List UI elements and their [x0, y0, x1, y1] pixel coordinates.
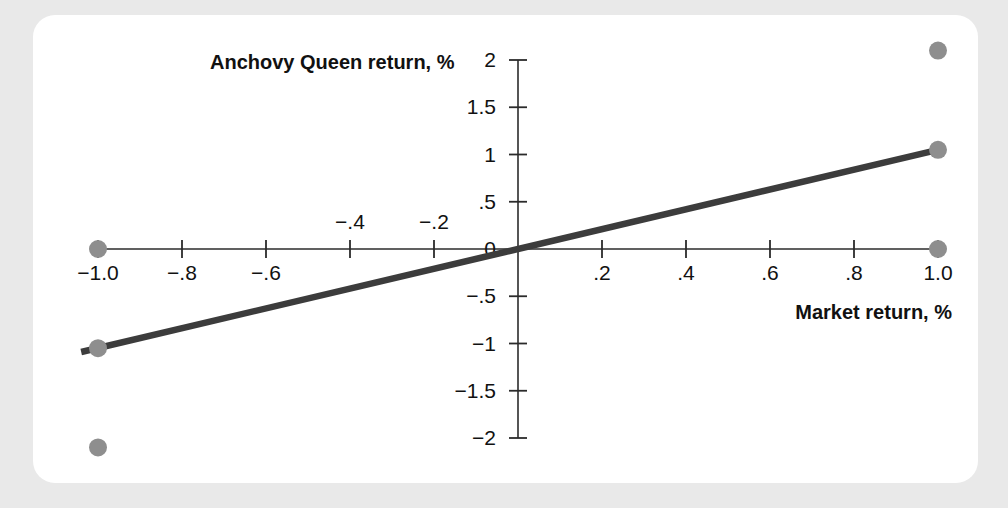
data-point-marker: [929, 141, 947, 159]
data-point-marker: [89, 438, 107, 456]
y-axis-title: Anchovy Queen return, %: [210, 51, 455, 73]
data-point-marker: [929, 42, 947, 60]
x-tick-label: .4: [677, 261, 695, 284]
x-tick-label: −.4: [335, 210, 365, 233]
y-tick-label: 1: [484, 143, 496, 166]
chart-container: −1.0−.8−.6−.4−.2.2.4.6.81.0 21.51.50−.5−…: [0, 0, 1008, 508]
data-point-marker: [89, 339, 107, 357]
screenshot-root: −1.0−.8−.6−.4−.2.2.4.6.81.0 21.51.50−.5−…: [0, 0, 1008, 508]
x-axis-title: Market return, %: [795, 301, 952, 323]
x-tick-label: −1.0: [77, 261, 118, 284]
y-tick-label: −1: [472, 332, 496, 355]
data-point-marker: [89, 240, 107, 258]
x-tick-label: 1.0: [923, 261, 952, 284]
x-tick-label: .8: [845, 261, 863, 284]
y-tick-label: 2: [484, 48, 496, 71]
x-tick-label: .2: [593, 261, 611, 284]
y-tick-label: −1.5: [455, 379, 496, 402]
y-tick-label: −.5: [466, 284, 496, 307]
y-tick-label: −2: [472, 426, 496, 449]
data-point-marker: [929, 240, 947, 258]
x-tick-label: −.2: [419, 210, 449, 233]
y-tick-label: 1.5: [467, 95, 496, 118]
y-tick-label: .5: [478, 190, 496, 213]
x-tick-label: −.8: [167, 261, 197, 284]
x-tick-label: −.6: [251, 261, 281, 284]
scatter-plot-svg: −1.0−.8−.6−.4−.2.2.4.6.81.0 21.51.50−.5−…: [0, 0, 1008, 508]
x-tick-label: .6: [761, 261, 779, 284]
